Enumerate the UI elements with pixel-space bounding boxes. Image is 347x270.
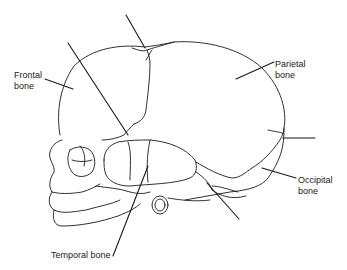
leader-occipital [262, 168, 296, 178]
lambdoid-suture [268, 130, 284, 134]
skull-diagram [0, 0, 347, 270]
cranium-outline [59, 42, 285, 200]
label-frontal-bone: Frontal bone [14, 70, 42, 92]
leader-coronal-suture [68, 43, 128, 135]
coronal-suture [102, 124, 134, 140]
temporal-squama [104, 140, 196, 186]
anterior-fontanel [132, 48, 150, 124]
label-occipital-bone: Occipital bone [298, 175, 333, 197]
leader-anterior-fontanel [126, 15, 145, 48]
label-parietal-bone: Parietal bone [275, 59, 306, 81]
label-temporal-bone: Temporal bone [51, 250, 111, 261]
zygomatic-arch [96, 186, 150, 194]
leader-temporal [113, 166, 148, 256]
leader-frontal [45, 79, 73, 89]
leader-mastoid-fontanel [207, 183, 239, 219]
leader-parietal [236, 62, 274, 79]
